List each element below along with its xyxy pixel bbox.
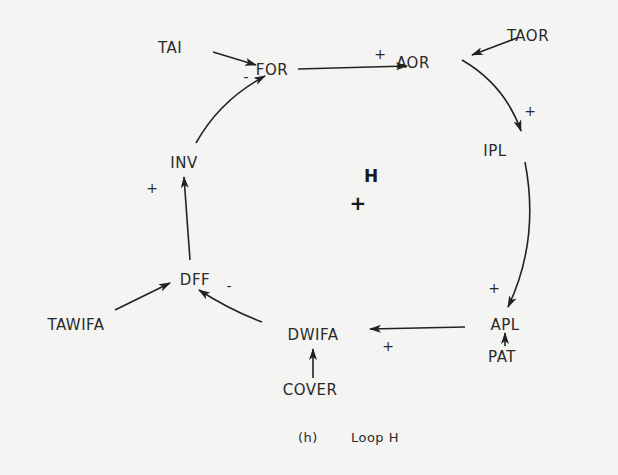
link-ipl-apl bbox=[508, 162, 530, 307]
causal-loop-diagram: TAI FOR AOR TAOR IPL APL PAT DWIFA COVER… bbox=[0, 0, 618, 475]
node-tawifa: TAWIFA bbox=[46, 316, 104, 334]
sign-aor-ipl: + bbox=[524, 103, 536, 119]
node-for: FOR bbox=[256, 61, 288, 79]
link-dwifa-dff bbox=[199, 290, 262, 322]
node-tai: TAI bbox=[157, 39, 182, 57]
link-tawifa-dff bbox=[115, 283, 170, 310]
loop-label: H bbox=[364, 166, 378, 186]
caption-text: Loop H bbox=[351, 430, 399, 445]
sign-ipl-apl: + bbox=[488, 280, 500, 296]
link-tai-for bbox=[213, 52, 256, 65]
link-taor-aor bbox=[472, 38, 517, 55]
node-pat: PAT bbox=[488, 348, 516, 366]
link-inv-for bbox=[196, 76, 265, 143]
sign-dwifa-dff: - bbox=[226, 278, 231, 294]
link-dff-inv bbox=[184, 177, 190, 260]
sign-dff-inv: + bbox=[146, 180, 158, 196]
node-dff: DFF bbox=[180, 271, 210, 289]
link-apl-dwifa bbox=[370, 327, 465, 329]
node-dwifa: DWIFA bbox=[288, 326, 339, 344]
node-taor: TAOR bbox=[506, 27, 549, 45]
node-apl: APL bbox=[490, 316, 519, 334]
sign-tai-for: - bbox=[243, 69, 248, 85]
node-ipl: IPL bbox=[483, 142, 506, 160]
sign-for-aor: + bbox=[374, 46, 386, 62]
link-for-aor bbox=[298, 66, 407, 69]
loop-polarity: + bbox=[350, 191, 367, 215]
link-aor-ipl bbox=[462, 60, 521, 131]
caption-prefix: (h) bbox=[298, 430, 318, 445]
node-inv: INV bbox=[170, 154, 198, 172]
node-aor: AOR bbox=[396, 54, 430, 72]
node-cover: COVER bbox=[283, 381, 338, 399]
sign-apl-dwifa: + bbox=[382, 338, 394, 354]
